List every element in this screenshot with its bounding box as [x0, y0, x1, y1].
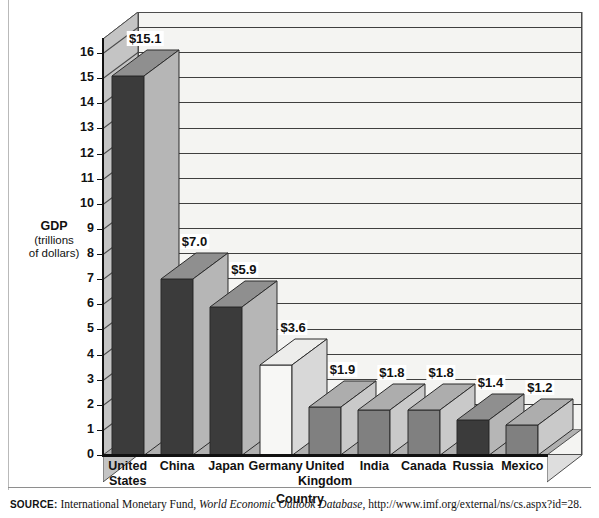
- x-category-label: Mexico: [501, 459, 543, 474]
- y-tick-label: 16: [68, 47, 94, 57]
- y-tick-label: 0: [68, 449, 94, 459]
- bar-value-label: $1.8: [377, 365, 406, 380]
- bar-value-label: $5.9: [229, 262, 258, 277]
- gridline: [138, 77, 582, 78]
- bar-value-label: $1.9: [328, 362, 357, 377]
- y-tick-label: 13: [68, 122, 94, 132]
- bar-chart-plot: 012345678910111213141516 $15.1$7.0$5.9$3…: [0, 0, 599, 490]
- gridline: [138, 128, 582, 129]
- y-axis-title-line1: GDP: [14, 220, 94, 234]
- y-axis-title-line3: of dollars): [14, 247, 94, 261]
- gridline: [138, 52, 582, 53]
- gridline: [138, 153, 582, 154]
- y-tick-label: 5: [68, 323, 94, 333]
- y-tick-label: 4: [68, 349, 94, 359]
- y-tick-label: 3: [68, 374, 94, 384]
- y-tick-label: 15: [68, 72, 94, 82]
- figure-page: 012345678910111213141516 $15.1$7.0$5.9$3…: [0, 0, 599, 518]
- y-tick-label: 2: [68, 399, 94, 409]
- y-tick-label: 6: [68, 298, 94, 308]
- gridline: [138, 228, 582, 229]
- y-axis-line: [102, 38, 104, 456]
- bar-value-label: $15.1: [127, 31, 164, 46]
- x-category-label: Canada: [401, 459, 446, 474]
- bar-value-label: $3.6: [279, 320, 308, 335]
- source-label: SOURCE:: [10, 499, 58, 510]
- y-tick-label: 1: [68, 424, 94, 434]
- y-tick-label: 11: [68, 173, 94, 183]
- y-axis-title: GDP (trillions of dollars): [14, 220, 94, 261]
- source-url: , http://www.imf.org/external/ns/cs.aspx…: [362, 498, 582, 510]
- bar-value-label: $1.4: [476, 375, 505, 390]
- x-axis-line: [102, 454, 548, 457]
- gridline: [138, 27, 582, 28]
- x-category-label: Germany: [249, 459, 303, 474]
- bar-value-label: $7.0: [180, 234, 209, 249]
- y-tick-label: 7: [68, 273, 94, 283]
- source-note: SOURCE: International Monetary Fund, Wor…: [10, 498, 595, 510]
- bar-value-label: $1.8: [427, 365, 456, 380]
- x-category-label: United Kingdom: [298, 459, 352, 489]
- source-publisher: International Monetary Fund,: [60, 498, 196, 510]
- gridline: [138, 178, 582, 179]
- x-category-label: India: [360, 459, 389, 474]
- y-tick-label: 10: [68, 198, 94, 208]
- x-category-label: United States: [108, 459, 147, 489]
- x-category-label: China: [160, 459, 195, 474]
- bar-value-label: $1.2: [525, 380, 554, 395]
- y-axis-title-line2: (trillions: [14, 234, 94, 248]
- bar-column[interactable]: [506, 399, 573, 455]
- x-category-label: Japan: [208, 459, 244, 474]
- source-title: World Economic Outlook Database: [199, 498, 362, 510]
- x-category-label: Russia: [453, 459, 494, 474]
- gridline: [138, 102, 582, 103]
- y-tick-label: 12: [68, 148, 94, 158]
- gridline: [138, 203, 582, 204]
- y-tick-label: 14: [68, 97, 94, 107]
